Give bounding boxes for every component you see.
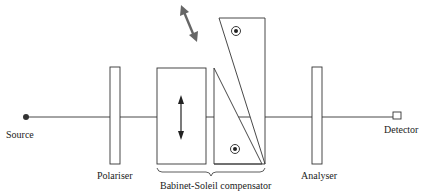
wedge-movement-arrow-icon bbox=[180, 5, 198, 42]
source-dot-icon bbox=[23, 114, 29, 120]
out-of-plane-axis-icon-bottom bbox=[231, 145, 240, 154]
polariser-label: Polariser bbox=[97, 170, 133, 181]
optical-layout bbox=[0, 0, 423, 193]
polariser-plate bbox=[110, 67, 120, 164]
analyser-label: Analyser bbox=[301, 170, 337, 181]
diagram-canvas: Source Polariser Babinet-Soleil compensa… bbox=[0, 0, 423, 193]
source-label: Source bbox=[6, 129, 34, 140]
analyser-plate bbox=[312, 67, 322, 164]
compensator-brace bbox=[157, 168, 265, 176]
out-of-plane-axis-icon-top bbox=[232, 27, 241, 36]
detector-label: Detector bbox=[384, 124, 418, 135]
detector-icon bbox=[393, 112, 401, 119]
compensator-label: Babinet-Soleil compensator bbox=[160, 180, 271, 191]
